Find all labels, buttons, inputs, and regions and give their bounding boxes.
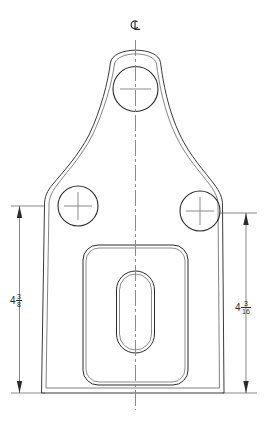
dimension-right-denominator: 16 [241, 307, 251, 315]
centerline-symbol-c-glyph [131, 21, 137, 29]
technical-drawing-canvas [0, 0, 270, 421]
dimension-right-label: 4 3 16 [235, 300, 251, 315]
left-hole-group [58, 186, 98, 226]
dimension-left-denominator: 8 [16, 300, 22, 308]
dimension-left-fraction: 3 8 [16, 293, 22, 308]
dimension-left-numerator: 3 [16, 293, 22, 300]
dimension-right-fraction: 3 16 [241, 300, 251, 315]
dimension-right-numerator: 3 [243, 300, 249, 307]
right-hole-group [180, 191, 220, 231]
dimension-left-label: 4 3 8 [10, 293, 22, 308]
centerline-symbol [126, 18, 146, 38]
